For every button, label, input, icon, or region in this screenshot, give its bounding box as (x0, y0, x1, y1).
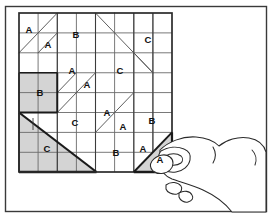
piece-c-3: C (72, 117, 79, 128)
puzzle-illustration: A A B C B A A C A C A B C B A A (0, 0, 273, 219)
piece-c-1: C (145, 34, 152, 45)
piece-b-4: B (113, 147, 120, 158)
piece-a-1: A (26, 24, 33, 35)
piece-b-1: B (73, 29, 80, 40)
piece-c-2: C (117, 65, 124, 76)
figure-root: A A B C B A A C A C A B C B A A (0, 0, 273, 219)
piece-a-4: A (84, 79, 91, 90)
piece-a-5: A (104, 107, 111, 118)
piece-b-2: B (37, 87, 44, 98)
piece-a-held: A (157, 154, 164, 165)
piece-a-3: A (69, 65, 76, 76)
piece-a-6: A (120, 121, 127, 132)
piece-a-7: A (140, 143, 147, 154)
piece-a-2: A (45, 39, 52, 50)
piece-b-3: B (149, 115, 156, 126)
piece-c-4: C (44, 143, 51, 154)
